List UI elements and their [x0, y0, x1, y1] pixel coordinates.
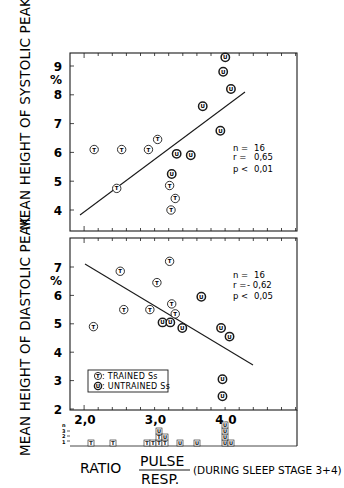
lower-panel: 2,03,04,0 234567 TTTTTTTTUUUUUUUU % n = … [17, 216, 297, 456]
svg-text:U: U [157, 428, 161, 434]
untrained-point: U [187, 151, 195, 159]
svg-text:U: U [219, 325, 223, 331]
lower-p-value: 0,05 [254, 291, 273, 301]
svg-text:T: T [115, 185, 119, 191]
trained-point: T [171, 194, 179, 202]
svg-text:T: T [163, 440, 167, 446]
svg-text:T: T [118, 268, 122, 274]
trained-point: T [165, 257, 173, 265]
untrained-point: U [166, 318, 174, 326]
histogram-box: T [162, 440, 168, 446]
y-tick-label: 5 [54, 317, 62, 331]
svg-text:T: T [173, 195, 177, 201]
upper-x-ticks [84, 53, 296, 231]
histogram-box: T [156, 440, 162, 446]
x-axis-suffix: (DURING SLEEP STAGE 3+4) [193, 464, 342, 476]
lower-percent-unit: % [50, 274, 62, 288]
trained-point: T [165, 181, 173, 189]
svg-text:U: U [180, 325, 184, 331]
histogram-box: T [150, 440, 156, 446]
histogram-box: U [222, 422, 228, 428]
upper-panel: 456789 TTTTTTTTUUUUUUUU % n = 16 r = 0,6… [17, 0, 297, 231]
trained-point: T [144, 145, 152, 153]
svg-text:U: U [178, 440, 182, 446]
histogram-box: U [162, 434, 168, 440]
histogram-box: U [222, 440, 228, 446]
trained-point: T [90, 145, 98, 153]
trained-point: T [116, 267, 124, 275]
y-tick-label: 2 [54, 403, 62, 417]
svg-text:U: U [220, 393, 224, 399]
histogram-box: T [156, 434, 162, 440]
upper-stats: n = 16 r = 0,65 p < 0,01 [233, 143, 273, 174]
upper-plot-frame [70, 53, 297, 231]
histogram-box: U [222, 434, 228, 440]
x-axis-denominator: RESP. [141, 471, 179, 487]
y-tick-label: 9 [54, 60, 62, 74]
svg-text:T: T [120, 147, 124, 153]
trained-point: T [120, 305, 128, 313]
svg-text:U: U [199, 294, 203, 300]
untrained-point: U [227, 85, 235, 93]
svg-text:T: T [148, 307, 152, 313]
svg-text:U: U [223, 434, 227, 440]
histogram-box: U [177, 440, 183, 446]
upper-percent-unit: % [50, 73, 62, 87]
x-tick-label: 2,0 [74, 413, 95, 427]
upper-regression-line [80, 92, 245, 215]
svg-text:T: T [155, 280, 159, 286]
svg-text:U: U [174, 151, 178, 157]
trained-point: T [167, 206, 175, 214]
svg-text:U: U [223, 428, 227, 434]
trained-point: T [153, 278, 161, 286]
upper-r-label: r = [233, 152, 246, 162]
lower-regression-line [85, 264, 253, 365]
svg-text:T: T [147, 147, 151, 153]
figure: 456789 TTTTTTTTUUUUUUUU % n = 16 r = 0,6… [0, 0, 344, 488]
legend-trained-symbol: T [96, 373, 100, 379]
svg-text:T: T [169, 207, 173, 213]
legend: T : TRAINED Ss U : UNTRAINED Ss [88, 370, 170, 392]
svg-text:T: T [111, 440, 115, 446]
histogram-box: T [144, 440, 150, 446]
svg-text:U: U [160, 319, 164, 325]
histogram-box: T [110, 440, 116, 446]
lower-r-label: r = [233, 280, 246, 290]
histogram-tick-1: 1 [62, 439, 66, 445]
untrained-point: U [218, 392, 226, 400]
untrained-point: U [221, 53, 229, 61]
upper-p-label: p < [233, 164, 248, 174]
lower-p-label: p < [233, 291, 248, 301]
trained-point: T [146, 305, 154, 313]
svg-text:U: U [223, 54, 227, 60]
svg-text:U: U [195, 440, 199, 446]
trained-point: T [113, 184, 121, 192]
svg-text:U: U [218, 128, 222, 134]
svg-text:T: T [151, 440, 155, 446]
svg-text:T: T [122, 307, 126, 313]
histogram-box: T [88, 440, 94, 446]
legend-untrained-symbol: U [96, 383, 100, 389]
y-tick-label: 4 [54, 204, 62, 218]
svg-text:T: T [89, 440, 93, 446]
untrained-point: U [216, 127, 224, 135]
svg-text:T: T [156, 136, 160, 142]
untrained-point: U [225, 332, 233, 340]
trained-point: T [117, 145, 125, 153]
trained-point: T [153, 135, 161, 143]
x-tick-label: 3,0 [145, 413, 166, 427]
histogram-box: U [228, 440, 234, 446]
svg-text:U: U [220, 376, 224, 382]
svg-text:T: T [168, 258, 172, 264]
trained-point: T [168, 300, 176, 308]
lower-n-label: n = [233, 270, 248, 280]
y-tick-label: 7 [54, 117, 62, 131]
svg-text:U: U [201, 103, 205, 109]
svg-text:U: U [227, 334, 231, 340]
x-axis-title: RATIO PULSE RESP. (DURING SLEEP STAGE 3+… [80, 453, 342, 487]
histogram-box: U [156, 428, 162, 434]
svg-text:T: T [157, 440, 161, 446]
y-tick-label: 6 [54, 289, 62, 303]
x-axis-prefix: RATIO [80, 460, 121, 476]
upper-p-value: 0,01 [254, 164, 273, 174]
